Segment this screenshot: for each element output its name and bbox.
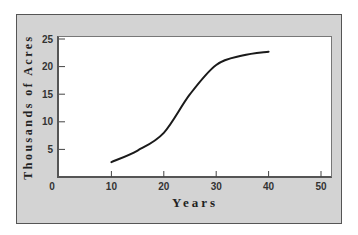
x-tick-label: 40 <box>263 181 275 192</box>
x-axis-ticks: 01020304050 <box>49 171 327 192</box>
y-tick-label: 10 <box>42 116 54 127</box>
x-tick-label: 20 <box>158 181 170 192</box>
x-tick-label: 10 <box>106 181 118 192</box>
x-tick-label: 0 <box>49 181 55 192</box>
x-tick-label: 30 <box>211 181 223 192</box>
y-axis-label: Thousands of Acres <box>21 34 35 179</box>
x-tick-label: 50 <box>315 181 327 192</box>
y-tick-label: 20 <box>42 61 54 72</box>
y-axis-ticks: 510152025 <box>42 34 65 155</box>
y-tick-label: 5 <box>47 144 53 155</box>
y-tick-label: 25 <box>42 34 54 45</box>
line-chart: 510152025 01020304050 Thousands of Acres… <box>0 0 358 235</box>
data-line <box>111 52 268 162</box>
x-axis-label: Years <box>172 195 218 210</box>
y-tick-label: 15 <box>42 89 54 100</box>
